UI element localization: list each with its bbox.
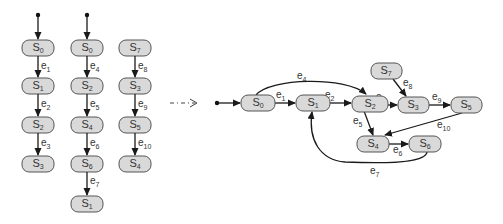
merged-edge-e5 xyxy=(364,111,373,135)
merged-graph: e1 e2 e4 e3 e8 e9 e10 e5 e6 e7 S0 S1 S2 xyxy=(215,63,482,178)
trace1-state-s3: S3 xyxy=(22,156,54,172)
merged-state-s5: S5 xyxy=(451,97,482,113)
merged-state-s4: S4 xyxy=(357,136,389,152)
trace3-state-s3: S3 xyxy=(119,78,151,94)
edge-label-e8: e8 xyxy=(403,77,413,90)
trace1-state-s0: S0 xyxy=(22,40,54,56)
merged-state-s6: S6 xyxy=(409,136,441,152)
trace3-state-s7: S7 xyxy=(119,40,151,56)
merged-state-s1: S1 xyxy=(296,95,330,111)
merged-state-s2: S2 xyxy=(352,96,388,112)
trace2-state-s1: S1 xyxy=(71,196,103,212)
edge-label-e7: e7 xyxy=(90,175,100,188)
initial-marker xyxy=(215,101,219,105)
trace2-state-s4: S4 xyxy=(71,117,103,133)
trace1-state-s1: S1 xyxy=(22,78,54,94)
initial-marker xyxy=(85,13,89,17)
merged-state-s3: S3 xyxy=(398,97,429,113)
edge-label-e4: e4 xyxy=(297,70,307,83)
trace3-state-s4: S4 xyxy=(119,156,151,172)
edge-label-e1: e1 xyxy=(41,60,51,73)
edge-label-e10: e10 xyxy=(437,119,450,132)
merged-state-s7: S7 xyxy=(371,63,402,79)
edge-label-e4: e4 xyxy=(90,60,100,73)
edge-label-e9: e9 xyxy=(138,98,148,111)
edge-label-e5: e5 xyxy=(90,98,100,111)
edge-label-e10: e10 xyxy=(138,137,151,150)
trace-3: S7 e8 S3 e9 S5 e10 S4 xyxy=(119,40,151,172)
edge-label-e2: e2 xyxy=(41,98,51,111)
trace-2: S0 e4 S2 e5 S4 e6 S6 e7 S1 xyxy=(71,13,103,212)
edge-label-e3: e3 xyxy=(41,137,51,150)
edge-label-e9: e9 xyxy=(432,91,442,104)
edge-label-e1: e1 xyxy=(276,89,286,102)
trace-1: S0 e1 S1 e2 S2 e3 S3 xyxy=(22,13,54,172)
edge-label-e8: e8 xyxy=(138,60,148,73)
trace2-state-s6: S6 xyxy=(71,156,103,172)
merged-state-s0: S0 xyxy=(241,95,275,111)
merged-edge-e10 xyxy=(385,113,462,135)
transform-arrow xyxy=(170,99,197,107)
initial-marker xyxy=(36,13,40,17)
trace1-state-s2: S2 xyxy=(22,117,54,133)
merged-edge-e4 xyxy=(256,81,366,95)
trace2-state-s0: S0 xyxy=(71,40,103,56)
edge-label-e6: e6 xyxy=(90,137,100,150)
state-diagram: S0 e1 S1 e2 S2 e3 S3 S0 e4 S2 xyxy=(0,0,503,224)
edge-label-e5: e5 xyxy=(353,115,363,128)
trace3-state-s5: S5 xyxy=(119,117,151,133)
edge-label-e7: e7 xyxy=(370,165,380,178)
trace2-state-s2: S2 xyxy=(71,78,103,94)
edge-label-e6: e6 xyxy=(393,144,403,157)
